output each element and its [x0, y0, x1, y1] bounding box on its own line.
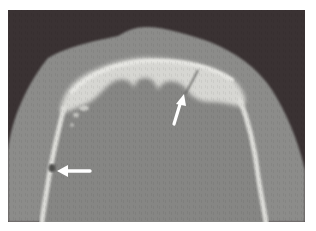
figure-frame: skull vault cross-section: [0, 0, 316, 231]
ct-scan-image: [0, 0, 316, 231]
